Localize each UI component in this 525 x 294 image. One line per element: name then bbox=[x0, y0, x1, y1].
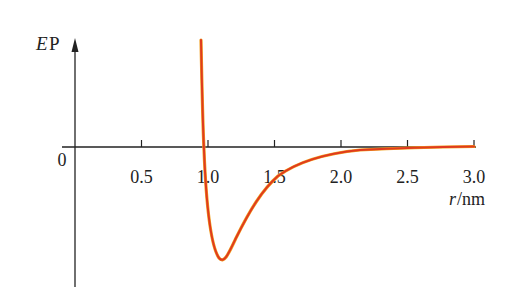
x-tick-label: 3.0 bbox=[463, 167, 486, 187]
x-tick-label: 1.5 bbox=[263, 167, 286, 187]
y-axis-label-main: E bbox=[35, 33, 48, 54]
potential-energy-curve bbox=[201, 40, 474, 260]
x-tick-label: 0.5 bbox=[130, 167, 153, 187]
origin-label: 0 bbox=[58, 150, 67, 170]
potential-energy-chart: 0 0.5 1.0 1.5 2.0 2.5 3.0 r /nm E P bbox=[0, 0, 525, 294]
y-axis-arrow-icon bbox=[72, 38, 79, 52]
x-axis-label-unit: /nm bbox=[457, 189, 485, 209]
x-tick-label: 2.0 bbox=[330, 167, 353, 187]
y-axis-label-sub: P bbox=[49, 33, 60, 54]
x-axis-label-r: r bbox=[449, 189, 457, 209]
x-tick-label: 1.0 bbox=[197, 167, 220, 187]
x-tick-label: 2.5 bbox=[396, 167, 419, 187]
